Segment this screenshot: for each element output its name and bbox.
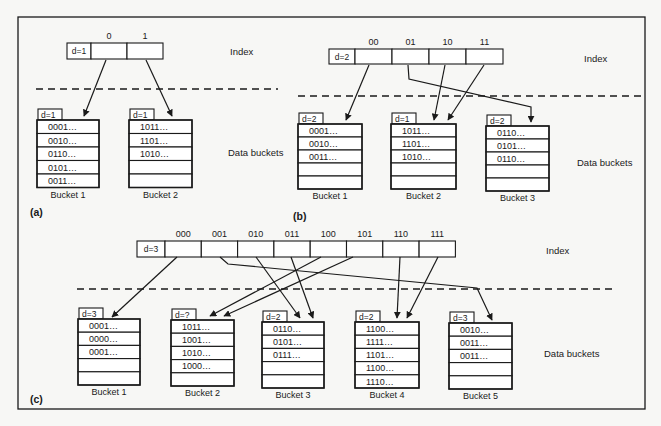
index-slot-label: 011 <box>285 229 299 239</box>
bucket-record: 0001… <box>309 126 338 136</box>
panel-label-b: (b) <box>293 210 306 222</box>
bucket-1: d=20001…0010…0011…Bucket 1 <box>298 113 362 201</box>
bucket-caption: Bucket 3 <box>500 193 535 203</box>
local-depth-label: d=3 <box>453 313 468 323</box>
bucket-caption: Bucket 3 <box>275 390 310 400</box>
pointer-10-to-bucket-2 <box>434 65 445 120</box>
local-depth-label: d=2 <box>490 116 505 126</box>
bucket-caption: Bucket 2 <box>406 191 441 201</box>
pointer-01-to-bucket-3 <box>408 65 531 122</box>
bucket-record-slot <box>262 375 324 388</box>
panel-label-c: (c) <box>30 393 43 405</box>
global-depth-label: d=3 <box>144 244 159 254</box>
bucket-record: 0101… <box>273 337 302 347</box>
index-slot-010 <box>238 241 274 257</box>
bucket-record: 0010… <box>48 136 77 146</box>
bucket-record: 1111… <box>366 337 393 347</box>
local-depth-label: d=3 <box>82 309 97 319</box>
local-depth-label: d=2 <box>266 312 281 322</box>
index-slot-10 <box>429 49 466 64</box>
index-slot-110 <box>383 241 419 257</box>
index-slot-label: 11 <box>480 37 489 47</box>
index-slot-1 <box>127 43 163 59</box>
bucket-record-slot <box>298 163 362 176</box>
bucket-4: d=21100…1111…1101…1100…1110…Bucket 4 <box>355 311 419 400</box>
bucket-record: 1010… <box>402 152 431 162</box>
pointer-100-to-bucket-2 <box>210 257 321 316</box>
bucket-caption: Bucket 5 <box>463 391 498 401</box>
index-slot-100 <box>310 241 346 257</box>
index-slot-101 <box>347 241 383 257</box>
bucket-record-slot <box>298 176 362 189</box>
index-label: Index <box>230 46 253 57</box>
index-slot-label: 010 <box>248 229 263 239</box>
index-slot-11 <box>466 49 503 64</box>
bucket-record: 1100… <box>366 363 394 373</box>
bucket-record: 1001… <box>182 335 211 345</box>
bucket-record: 0001… <box>89 321 118 331</box>
bucket-2: d=11011…1101…1010…Bucket 2 <box>391 113 456 201</box>
pointer-110-to-bucket-4 <box>397 257 400 318</box>
bucket-caption: Bucket 1 <box>50 190 85 200</box>
bucket-2: d=?1011…1001…1010…1000…Bucket 2 <box>171 309 234 398</box>
bucket-record: 1011… <box>140 122 168 132</box>
bucket-record-slot <box>449 376 512 389</box>
bucket-record: 1101… <box>140 136 168 146</box>
bucket-record-slot <box>129 174 192 188</box>
index-label: Index <box>584 53 607 64</box>
index-slot-label: 101 <box>357 229 372 239</box>
index-slot-011 <box>274 241 310 257</box>
bucket-record: 0001… <box>48 122 77 132</box>
panels: d=101IndexData bucketsd=10001…0010…0110…… <box>30 31 643 405</box>
index-slot-label: 1 <box>142 31 147 41</box>
index-slot-label: 10 <box>442 37 452 47</box>
global-depth-label: d=1 <box>72 46 87 56</box>
data-buckets-label: Data buckets <box>228 147 284 158</box>
index-slot-label: 111 <box>430 229 444 239</box>
data-buckets-label: Data buckets <box>544 348 600 359</box>
bucket-2: d=11011…1101…1010…Bucket 2 <box>129 109 192 200</box>
bucket-record-slot <box>486 178 549 191</box>
bucket-record: 1100… <box>366 324 394 334</box>
bucket-record: 1110… <box>366 377 394 387</box>
bucket-record: 0110… <box>48 149 76 159</box>
index-directory: d=200011011 <box>329 37 503 64</box>
bucket-record: 0110… <box>497 128 525 138</box>
bucket-record: 0011… <box>460 338 488 348</box>
bucket-record: 1010… <box>182 348 211 358</box>
index-slot-label: 00 <box>368 37 378 47</box>
local-depth-label: d=2 <box>302 114 317 124</box>
bucket-record: 0101… <box>497 141 526 151</box>
bucket-caption: Bucket 2 <box>143 190 178 200</box>
index-slot-000 <box>165 241 201 257</box>
index-slot-label: 000 <box>176 229 191 239</box>
bucket-record: 0011… <box>460 351 488 361</box>
index-directory: d=101 <box>67 31 163 59</box>
index-slot-label: 01 <box>405 37 415 47</box>
local-depth-label: d=? <box>175 310 190 320</box>
bucket-record: 0110… <box>497 154 525 164</box>
bucket-record-slot <box>486 165 549 178</box>
bucket-record-slot <box>78 359 140 372</box>
bucket-3: d=20110…0101…0110…Bucket 3 <box>486 115 549 203</box>
extendible-hashing-diagram: d=101IndexData bucketsd=10001…0010…0110…… <box>0 0 661 426</box>
bucket-record: 1010… <box>140 149 169 159</box>
local-depth-label: d=2 <box>359 312 374 322</box>
bucket-caption: Bucket 1 <box>91 387 126 397</box>
index-slot-01 <box>392 49 429 64</box>
bucket-record-slot <box>449 363 512 376</box>
bucket-record-slot <box>78 372 140 385</box>
bucket-record: 1011… <box>182 322 210 332</box>
bucket-caption: Bucket 4 <box>369 390 404 400</box>
bucket-record: 1011… <box>402 126 430 136</box>
pointer-11-to-bucket-2 <box>448 65 484 120</box>
bucket-record: 1101… <box>402 139 430 149</box>
bucket-record: 0111… <box>273 350 301 360</box>
bucket-record: 1000… <box>182 361 211 371</box>
bucket-record-slot <box>129 161 192 175</box>
bucket-record: 0101… <box>48 163 77 173</box>
local-depth-label: d=1 <box>133 110 148 120</box>
bucket-record-slot <box>391 163 456 176</box>
bucket-1: d=10001…0010…0110…0101…0011…Bucket 1 <box>37 109 99 200</box>
bucket-3: d=20110…0101…0111…Bucket 3 <box>262 311 324 400</box>
